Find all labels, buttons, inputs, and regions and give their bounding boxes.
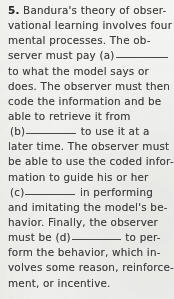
text-line-content: havior. Finally, the observer: [8, 216, 158, 228]
answer-blank-c[interactable]: [25, 194, 75, 195]
text-line-content: ment, or incentive.: [8, 277, 111, 289]
text-line-content: be able to use the coded infor-: [8, 155, 174, 167]
text-line-content: volves some reason, reinforce-: [8, 261, 174, 273]
text-line: 5. Bandura's theory of obser-: [8, 3, 170, 18]
blank-label-b: (b): [10, 125, 25, 137]
text-line: mental processes. The ob-: [8, 33, 170, 48]
blank-label-c: (c): [10, 186, 24, 198]
text-line: code the information and be: [8, 94, 170, 109]
text-line: and imitating the model's be-: [8, 200, 170, 215]
text-line-blank-d: must be (d) to per-: [8, 230, 170, 245]
text-line-content: server must pay (a): [8, 49, 115, 61]
text-line: vational learning involves four: [8, 18, 170, 33]
text-line-content: mation to guide his or her: [8, 171, 149, 183]
answer-blank-a[interactable]: [116, 57, 168, 58]
text-line: be able to use the coded infor-: [8, 154, 170, 169]
answer-blank-d[interactable]: [72, 239, 121, 240]
blank-label-d: must be (d): [8, 231, 71, 243]
text-line-content: Bandura's theory of obser-: [20, 4, 167, 16]
text-line: ment, or incentive.: [8, 276, 170, 291]
text-line-content: later time. The observer must: [8, 140, 169, 152]
text-line-content: does. The observer must then: [8, 80, 170, 92]
text-line-content: code the information and be: [8, 95, 161, 107]
text-line-content: able to retrieve it from: [8, 110, 131, 122]
text-line: to what the model says or: [8, 64, 170, 79]
text-line-content: vational learning involves four: [8, 19, 172, 31]
question-number: 5.: [8, 4, 20, 16]
text-line: form the behavior, which in-: [8, 245, 170, 260]
text-line: later time. The observer must: [8, 139, 170, 154]
text-line-content: to use it at a: [77, 125, 149, 137]
text-line-blank-a: server must pay (a): [8, 48, 170, 63]
text-line-blank-b: (b) to use it at a: [8, 124, 170, 139]
text-line-content: and imitating the model's be-: [8, 201, 168, 213]
answer-blank-b[interactable]: [26, 133, 76, 134]
text-line-content: to what the model says or: [8, 65, 149, 77]
text-line-content: in performing: [76, 186, 153, 198]
text-line-blank-c: (c) in performing: [8, 185, 170, 200]
question-text-block: 5. Bandura's theory of obser- vational l…: [8, 3, 170, 291]
text-line: havior. Finally, the observer: [8, 215, 170, 230]
text-line-content: form the behavior, which in-: [8, 246, 161, 258]
text-line: mation to guide his or her: [8, 170, 170, 185]
text-line: does. The observer must then: [8, 79, 170, 94]
text-line: able to retrieve it from: [8, 109, 170, 124]
text-line-content: mental processes. The ob-: [8, 34, 151, 46]
text-line-content: to per-: [122, 231, 161, 243]
text-line: volves some reason, reinforce-: [8, 260, 170, 275]
scanned-page: 5. Bandura's theory of obser- vational l…: [0, 0, 174, 299]
